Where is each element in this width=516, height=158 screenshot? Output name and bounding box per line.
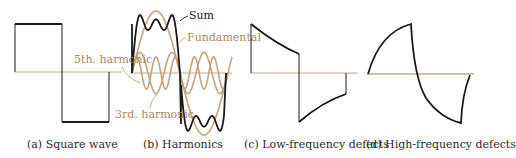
panel-c-low-frequency bbox=[251, 24, 358, 122]
fundamental-label: Fundamental bbox=[187, 31, 261, 44]
fundamental-pointer bbox=[180, 37, 186, 42]
caption-b: (b) Harmonics bbox=[143, 138, 223, 151]
panel-a-square-wave bbox=[15, 24, 122, 122]
fifth-harmonic-label: 5th. harmonic bbox=[74, 53, 152, 66]
sum-pointer bbox=[180, 16, 188, 21]
caption-a: (a) Square wave bbox=[27, 138, 118, 151]
fifth-pointer bbox=[122, 66, 140, 83]
panel-d-high-frequency bbox=[367, 24, 474, 123]
third-harmonic-label: 3rd. harmonic bbox=[115, 108, 194, 121]
third-pointer bbox=[150, 94, 157, 108]
sum-label: Sum bbox=[189, 9, 215, 22]
square-wave-path bbox=[15, 24, 109, 122]
caption-d: (d) High-frequency defects bbox=[366, 138, 516, 151]
